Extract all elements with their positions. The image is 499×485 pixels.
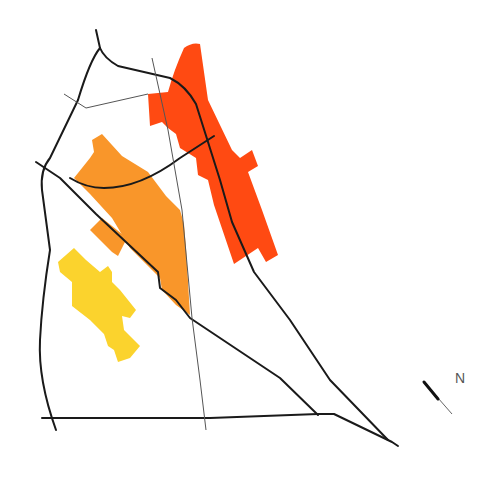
north-label: N — [455, 370, 465, 386]
north-arrow-icon — [424, 382, 452, 414]
district-map — [0, 0, 499, 485]
major-roads — [36, 30, 398, 446]
road-south — [42, 414, 398, 446]
road-north-spur — [96, 30, 100, 48]
yellow-zone — [58, 248, 140, 362]
road-west — [40, 48, 100, 430]
